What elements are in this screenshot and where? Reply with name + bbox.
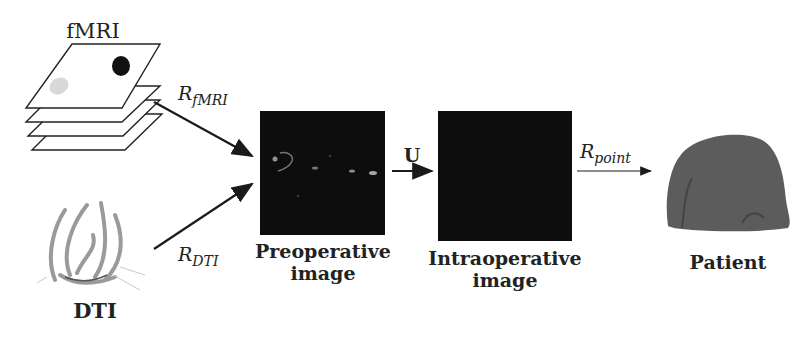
r-point-label: Rpoint — [580, 140, 631, 166]
patient-head-icon — [662, 128, 794, 238]
preoperative-highlights-icon — [260, 111, 385, 235]
intraoperative-label: Intraoperative image — [425, 247, 585, 291]
patient-label: Patient — [678, 251, 778, 273]
arrow-r-dti — [154, 184, 252, 249]
arrow-r-fmri — [154, 102, 252, 156]
preoperative-label: Preoperative image — [243, 240, 403, 284]
r-dti-label: RDTI — [178, 243, 218, 269]
intraoperative-image — [438, 111, 572, 241]
preoperative-image — [260, 111, 385, 235]
r-fmri-label: RfMRI — [178, 82, 228, 108]
u-label: U — [400, 144, 424, 166]
